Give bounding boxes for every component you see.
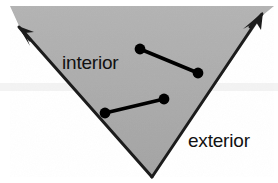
figure-canvas: interior exterior [0,0,278,183]
shaded-region-group [10,6,274,177]
geometry-diagram: interior exterior [0,0,278,183]
interior-label: interior [62,52,119,73]
shaded-region [10,6,274,177]
chord-lower-endpoint-start [100,108,111,119]
chord-lower-endpoint-end [159,94,170,105]
chord-upper-endpoint-end [193,68,204,79]
exterior-label: exterior [188,130,251,151]
chord-upper-endpoint-start [135,44,146,55]
